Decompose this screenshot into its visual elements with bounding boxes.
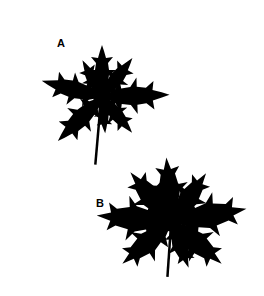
leaf-illustrations: [0, 0, 264, 296]
leaf-b: [95, 156, 251, 279]
leaf-a: [37, 45, 170, 165]
